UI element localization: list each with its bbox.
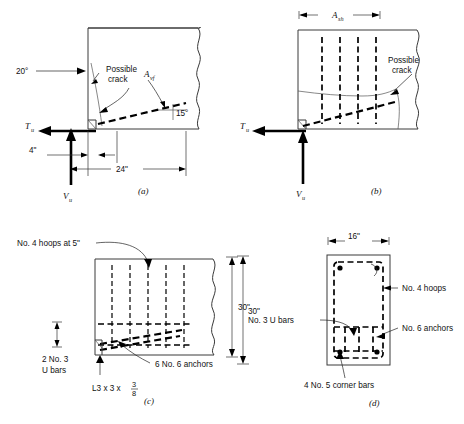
panel-a-tu-subscript: u <box>31 126 34 133</box>
panel-b-id-label: (b) <box>371 186 382 196</box>
panel-b-avf-bar <box>303 102 395 126</box>
panel-d-corner-bars-leader <box>340 356 345 378</box>
figure-canvas: 20° Possible crack A vf 15° T u V u 4" 2… <box>0 0 464 424</box>
panel-a-possible-crack-line <box>91 63 102 126</box>
panel-a-dim4-arrowhead <box>81 153 88 158</box>
panel-d-dim30-arrowhead-top <box>240 256 246 264</box>
panel-c-ubars-dim-arrowhead-bottom <box>55 340 60 347</box>
panel-b-ash-label: A <box>331 10 338 20</box>
panel-d-dim30-arrowhead-bottom <box>240 356 246 364</box>
panel-a-avf-leader <box>148 80 163 104</box>
panel-d-hoops-leader-arrowhead <box>383 286 391 291</box>
panel-d-dim16-arrowhead-left <box>328 239 336 244</box>
panel-a-angle-15-label: 15° <box>176 109 188 118</box>
panel-a: 20° Possible crack A vf 15° T u V u 4" 2… <box>16 27 200 203</box>
panel-b-break-edge <box>416 30 420 129</box>
panel-b-ash-arrowhead-left <box>299 13 307 18</box>
panel-d-dim16-arrowhead-right <box>381 239 389 244</box>
panel-c-id-label: (c) <box>144 396 154 406</box>
panel-b-possible-crack-label-line1: Possible <box>388 56 419 65</box>
panel-a-avf-subscript: vf <box>150 74 156 81</box>
panel-d-anchors-leader-arrowhead <box>376 333 385 339</box>
panel-b-crack-leader <box>394 74 412 91</box>
panel-d-ubars-label: No. 3 U bars <box>248 316 294 325</box>
panel-a-break-edge <box>197 28 201 129</box>
panel-b-possible-crack-line <box>298 89 399 129</box>
panel-d-dim-30in-label: 30" <box>248 307 260 316</box>
panel-c-hoops-label: No. 4 hoops at 5" <box>17 239 80 248</box>
panel-b-possible-crack-label-line2: crack <box>392 66 412 75</box>
panel-d-corner-bars-label: 4 No. 5 corner bars <box>304 381 374 390</box>
panel-b-ash-subscript: sh <box>338 15 344 22</box>
panel-c-anchors-label: 6 No. 6 anchors <box>155 360 213 369</box>
panel-c-break-edge <box>212 259 216 355</box>
panel-a-avf-leader-arrowhead <box>160 101 165 108</box>
panel-a-dim-24in-label: 24" <box>116 165 128 174</box>
panel-d-hoop-outline <box>334 262 383 358</box>
panel-b-tu-arrowhead <box>252 126 265 136</box>
panel-c: No. 4 hoops at 5" 2 No. 3 U bars L3 x 3 … <box>17 239 250 406</box>
panel-b: A sh Possible crack T u V u (b) <box>240 10 419 201</box>
panel-a-possible-crack-label-line1: Possible <box>106 65 137 74</box>
panel-a-dim-4in-label: 4" <box>29 146 37 155</box>
panel-c-anchors-leader <box>122 345 150 363</box>
panel-a-avf-label: A <box>143 69 150 79</box>
panel-d-corner-bar-top-left <box>337 265 342 270</box>
panel-d-dim-16in-label: 16" <box>348 232 360 241</box>
panel-d-corner-bar-bottom-right <box>374 349 379 354</box>
panel-a-bearing-plate-hatch <box>88 120 96 129</box>
panel-c-bearing-angle <box>95 340 102 355</box>
panel-a-vu-subscript: u <box>69 196 72 203</box>
panel-d-ubars-leader <box>320 320 352 330</box>
panel-a-dim24-arrowhead-right <box>179 167 186 172</box>
panel-c-angle-fraction-numerator: 3 <box>132 380 136 389</box>
panel-c-dim30-arrowhead-top <box>229 257 235 265</box>
panel-b-ash-arrowhead-right <box>372 13 380 18</box>
panel-c-ubars-dim-arrowhead-top <box>55 322 60 329</box>
panel-c-angle-label: L3 x 3 x <box>92 384 121 393</box>
panel-d: 16" 30" No. 4 hoops No. 6 anchors No. 3 … <box>237 232 453 408</box>
panel-c-angle-leader-arrowhead <box>96 355 104 363</box>
panel-c-dim30-arrowhead-bottom <box>229 349 235 357</box>
panel-b-vu-subscript: u <box>302 194 305 201</box>
panel-c-ubars-label-line1: 2 No. 3 <box>42 355 69 364</box>
engineering-figure-svg: 20° Possible crack A vf 15° T u V u 4" 2… <box>0 0 464 424</box>
panel-a-dim-mid-arrowhead <box>98 153 105 158</box>
panel-d-hoops-label: No. 4 hoops <box>402 284 446 293</box>
panel-a-20deg-arrowhead <box>77 68 86 75</box>
panel-a-possible-crack-label-line2: crack <box>108 75 128 84</box>
panel-d-ubars-leader-arrowhead <box>349 328 357 336</box>
panel-b-tu-subscript: u <box>246 126 249 133</box>
panel-a-crack-leader <box>103 88 129 110</box>
panel-a-angle-20-label: 20° <box>16 67 28 76</box>
panel-d-corner-bars-leader-arrowhead <box>336 351 344 359</box>
panel-c-ubars-label-line2: U bars <box>42 366 66 375</box>
panel-a-tu-arrowhead <box>38 126 51 136</box>
panel-d-id-label: (d) <box>369 398 380 408</box>
panel-a-id-label: (a) <box>138 186 149 196</box>
panel-d-anchors-label: No. 6 anchors <box>402 324 453 333</box>
panel-c-angle-fraction-denominator: 8 <box>132 389 136 398</box>
